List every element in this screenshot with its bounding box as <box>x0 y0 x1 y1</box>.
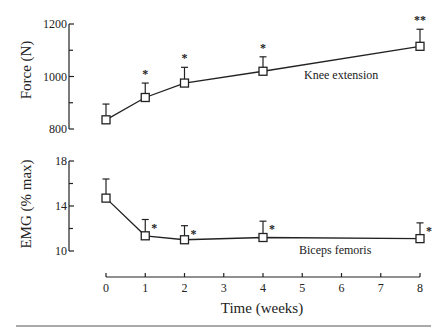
x-tick-label: 1 <box>142 281 148 295</box>
open-square-marker-icon <box>141 94 149 102</box>
y-tick-label: 800 <box>49 122 67 136</box>
asterisk-icon: * <box>426 224 432 238</box>
series-annotation: Knee extension <box>304 68 378 82</box>
open-square-marker-icon <box>416 42 424 50</box>
force-panel: 80010001200Force (N)*****Knee extension <box>18 13 426 136</box>
x-tick-label: 0 <box>103 281 109 295</box>
y-tick-label: 1200 <box>43 17 67 31</box>
open-square-marker-icon <box>102 194 110 202</box>
series-annotation: Biceps femoris <box>299 243 372 257</box>
asterisk-icon: * <box>142 67 148 81</box>
y-axis-title: Force (N) <box>18 41 35 100</box>
x-tick-label: 8 <box>417 281 423 295</box>
asterisk-icon: * <box>182 51 188 65</box>
time-x-axis: 012345678 <box>103 273 423 295</box>
open-square-marker-icon <box>141 232 149 240</box>
x-tick-label: 5 <box>299 281 305 295</box>
x-tick-label: 6 <box>339 281 345 295</box>
open-square-marker-icon <box>259 67 267 75</box>
open-square-marker-icon <box>259 234 267 242</box>
y-axis-title: EMG (% max) <box>18 159 35 248</box>
x-tick-label: 3 <box>221 281 227 295</box>
x-tick-label: 4 <box>260 281 266 295</box>
asterisk-icon: * <box>260 41 266 55</box>
x-tick-label: 7 <box>378 281 384 295</box>
figure: 80010001200Force (N)*****Knee extension … <box>0 0 444 332</box>
y-tick-label: 18 <box>55 154 67 168</box>
x-tick-label: 2 <box>182 281 188 295</box>
asterisk-icon: * <box>191 227 197 241</box>
asterisk-icon: ** <box>414 13 426 27</box>
asterisk-icon: * <box>151 221 157 235</box>
asterisk-icon: * <box>269 222 275 236</box>
open-square-marker-icon <box>102 116 110 124</box>
open-square-marker-icon <box>181 79 189 87</box>
emg-panel: 101418EMG (% max)****Biceps femoris <box>18 154 432 258</box>
y-tick-label: 10 <box>55 244 67 258</box>
open-square-marker-icon <box>416 235 424 243</box>
x-axis-title: Time (weeks) <box>221 300 303 317</box>
open-square-marker-icon <box>181 236 189 244</box>
y-tick-label: 1000 <box>43 70 67 84</box>
y-tick-label: 14 <box>55 199 67 213</box>
